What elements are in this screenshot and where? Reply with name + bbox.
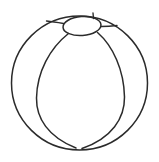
- seam-upper-right: [101, 26, 117, 27]
- seam-left-meridian: [36, 34, 76, 149]
- ball-cap-ellipse: [62, 15, 101, 37]
- beach-ball-figure: [0, 0, 159, 162]
- seam-right-meridian: [82, 33, 125, 149]
- drawing-canvas: [0, 0, 159, 162]
